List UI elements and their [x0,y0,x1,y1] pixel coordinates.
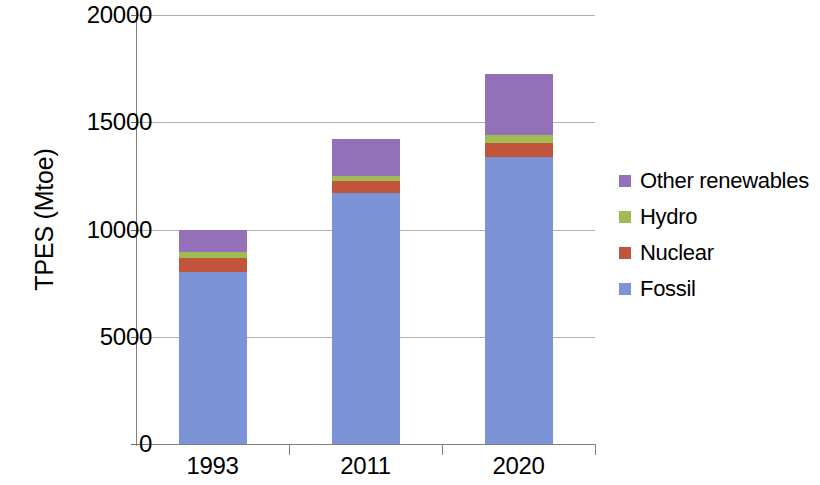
legend-item[interactable]: Hydro [619,199,809,235]
y-axis-tick-label: 20000 [32,3,152,27]
y-axis-tick-label: 0 [32,432,152,456]
bar-segment-fossil[interactable] [485,157,553,444]
bar-1993[interactable] [179,15,247,444]
legend-label-fossil: Fossil [640,276,696,302]
bar-segment-fossil[interactable] [179,272,247,444]
legend-swatch-nuclear [619,247,631,259]
x-axis-tick-label: 1993 [153,452,273,480]
bar-segment-other-renewables[interactable] [332,139,400,176]
x-axis-tick-label: 2011 [306,452,426,480]
legend-swatch-hydro [619,211,631,223]
x-axis-tick-label: 2020 [459,452,579,480]
y-axis-tick-label: 10000 [32,218,152,242]
legend-label-hydro: Hydro [640,204,697,230]
stacked-bar-chart: TPES (Mtoe) Other renewables Hydro Nucle… [0,0,820,485]
legend-swatch-fossil [619,283,631,295]
bar-segment-hydro[interactable] [179,252,247,258]
x-axis-end-tick [595,444,596,455]
plot-area [136,15,595,444]
legend-swatch-other-renewables [619,175,631,187]
y-axis-tick-label: 5000 [32,325,152,349]
legend-item[interactable]: Other renewables [619,163,809,199]
x-axis-line [136,444,596,445]
bar-segment-nuclear[interactable] [179,258,247,272]
legend-item[interactable]: Fossil [619,271,809,307]
bar-segment-hydro[interactable] [485,135,553,143]
legend-label-other-renewables: Other renewables [640,168,809,194]
legend-item[interactable]: Nuclear [619,235,809,271]
bar-segment-other-renewables[interactable] [179,230,247,253]
x-axis-tick [289,444,290,455]
bar-segment-fossil[interactable] [332,193,400,444]
y-axis-tick-label: 15000 [32,110,152,134]
bar-segment-other-renewables[interactable] [485,74,553,135]
bar-2011[interactable] [332,15,400,444]
bar-segment-nuclear[interactable] [332,181,400,193]
x-axis-tick [442,444,443,455]
legend-label-nuclear: Nuclear [640,240,714,266]
chart-legend: Other renewables Hydro Nuclear Fossil [619,163,809,307]
bar-segment-hydro[interactable] [332,176,400,181]
bar-2020[interactable] [485,15,553,444]
bar-segment-nuclear[interactable] [485,143,553,157]
